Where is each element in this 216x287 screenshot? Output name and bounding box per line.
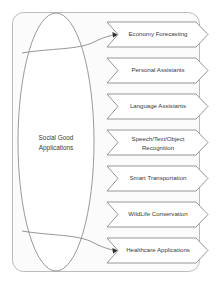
social-good-applications-flowchart: Social Good Applications Economy Forecas… — [0, 0, 216, 287]
chevron-label-smart-transportation: Smart Transportation — [130, 174, 187, 181]
chevron-label-economy-forecasting: Economy Forecasting — [129, 30, 188, 37]
chevron-label-language-assistants: Language Assistants — [130, 102, 186, 109]
chevron-label-wildlife-conservation: WildLife Conservation — [128, 210, 187, 217]
source-node-label-line1: Social Good — [39, 134, 74, 141]
chevron-label-personal-assistants: Personal Assistants — [131, 66, 184, 73]
diagram-canvas: Social Good Applications Economy Forecas… — [0, 0, 216, 287]
source-node-label-line2: Applications — [39, 144, 73, 152]
chevron-label-healthcare-applications: Healthcare Applications — [126, 246, 190, 253]
chevron-label-speech-text-object-line1: Speech/Text/Object — [132, 135, 185, 142]
chevron-label-speech-text-object-line2: Recognition — [142, 144, 174, 151]
